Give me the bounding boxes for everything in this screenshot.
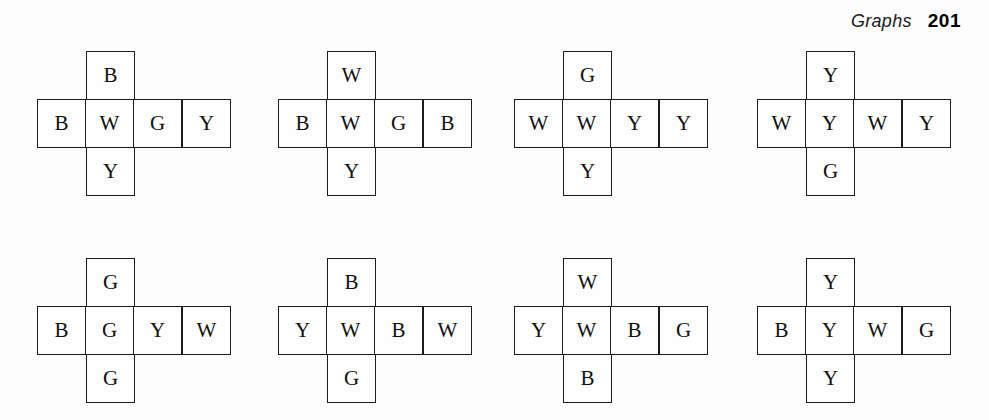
net-cell-top: W	[327, 51, 376, 100]
net-cell-mid-2: G	[374, 99, 423, 148]
net-cell-top: Y	[806, 51, 855, 100]
net-cell-mid-0: B	[37, 99, 86, 148]
net-cell-mid-2: W	[853, 306, 902, 355]
net-cell-mid-0: Y	[278, 306, 327, 355]
net-cell-mid-1: G	[85, 306, 134, 355]
net-cell-mid-3: W	[182, 306, 231, 355]
net-cell-mid-3: Y	[902, 99, 951, 148]
cube-net: W B W G B Y	[278, 51, 475, 198]
net-cell-mid-2: B	[374, 306, 423, 355]
net-cell-bottom: G	[86, 354, 135, 403]
net-cell-mid-1: W	[85, 99, 134, 148]
net-cell-mid-0: Y	[514, 306, 563, 355]
net-cell-mid-1: W	[562, 99, 611, 148]
net-cell-mid-0: B	[37, 306, 86, 355]
cube-net: G W W Y Y Y	[514, 51, 711, 198]
net-cell-mid-1: Y	[805, 306, 854, 355]
net-cell-top: G	[86, 258, 135, 307]
cube-net: B Y W B W G	[278, 258, 475, 405]
net-cell-mid-0: B	[757, 306, 806, 355]
net-cell-mid-1: Y	[805, 99, 854, 148]
net-cell-mid-3: G	[659, 306, 708, 355]
net-cell-mid-2: G	[133, 99, 182, 148]
net-cell-mid-3: Y	[659, 99, 708, 148]
net-cell-bottom: Y	[563, 147, 612, 196]
net-cell-mid-2: Y	[610, 99, 659, 148]
net-cell-bottom: Y	[806, 354, 855, 403]
cube-net: G B G Y W G	[37, 258, 234, 405]
cube-net: Y B Y W G Y	[757, 258, 954, 405]
cube-net: B B W G Y Y	[37, 51, 234, 198]
net-cell-top: G	[563, 51, 612, 100]
net-cell-mid-1: W	[326, 99, 375, 148]
net-cell-bottom: G	[327, 354, 376, 403]
page-canvas: Graphs 201 B B W G Y Y W B W G B Y G W W…	[0, 0, 989, 420]
net-cell-bottom: Y	[86, 147, 135, 196]
net-cell-mid-0: W	[757, 99, 806, 148]
net-cell-mid-0: B	[278, 99, 327, 148]
net-cell-bottom: Y	[327, 147, 376, 196]
cube-nets-figure: B B W G Y Y W B W G B Y G W W Y Y Y Y	[0, 0, 989, 420]
cube-net: Y W Y W Y G	[757, 51, 954, 198]
net-cell-mid-2: Y	[133, 306, 182, 355]
net-cell-top: W	[563, 258, 612, 307]
net-cell-mid-2: B	[610, 306, 659, 355]
net-cell-bottom: B	[563, 354, 612, 403]
net-cell-mid-3: W	[423, 306, 472, 355]
net-cell-mid-1: W	[326, 306, 375, 355]
net-cell-mid-0: W	[514, 99, 563, 148]
net-cell-mid-2: W	[853, 99, 902, 148]
net-cell-top: Y	[806, 258, 855, 307]
net-cell-top: B	[86, 51, 135, 100]
net-cell-mid-3: B	[423, 99, 472, 148]
cube-net: W Y W B G B	[514, 258, 711, 405]
net-cell-mid-3: G	[902, 306, 951, 355]
net-cell-mid-1: W	[562, 306, 611, 355]
net-cell-bottom: G	[806, 147, 855, 196]
net-cell-top: B	[327, 258, 376, 307]
net-cell-mid-3: Y	[182, 99, 231, 148]
